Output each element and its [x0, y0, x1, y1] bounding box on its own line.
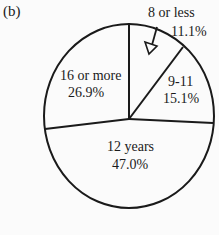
arrow-shaft: [152, 27, 157, 45]
slice-divider-9-11-12-years: [129, 119, 213, 123]
panel-label: (b): [3, 3, 21, 20]
slice-divider-12-years-16-or-more: [45, 119, 129, 129]
slice-value-9-11: 15.1%: [163, 91, 200, 106]
pie-chart: (b) 8 or less 11.1% 9-11 15.1% 12 years …: [0, 0, 219, 235]
slice-value-12-years: 47.0%: [112, 157, 149, 172]
slice-label-9-11: 9-11: [168, 74, 193, 89]
arrow-head-icon: [145, 42, 157, 54]
slice-label-16-or-more: 16 or more: [60, 68, 121, 83]
slice-label-12-years: 12 years: [107, 139, 154, 154]
slice-value-8-or-less: 11.1%: [171, 24, 207, 39]
slice-label-8-or-less: 8 or less: [148, 5, 195, 20]
slice-value-16-or-more: 26.9%: [68, 85, 105, 100]
